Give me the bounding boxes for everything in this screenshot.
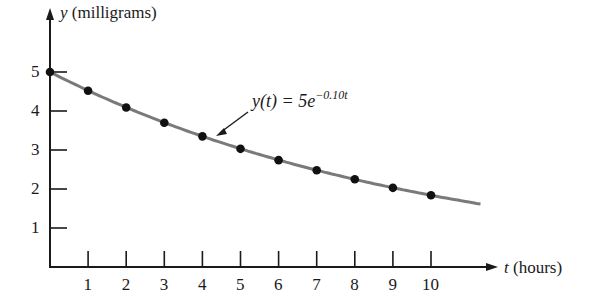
x-tick-label: 6 <box>274 276 283 293</box>
data-point <box>236 145 245 154</box>
x-axis-var: t <box>504 258 509 277</box>
x-tick-label: 4 <box>198 276 207 293</box>
y-axis-label: y (milligrams) <box>60 4 157 21</box>
data-point <box>198 132 207 141</box>
data-point <box>46 68 55 77</box>
data-point <box>84 86 93 95</box>
data-point <box>312 166 321 175</box>
data-point <box>427 191 436 200</box>
y-tick-label: 4 <box>31 102 40 119</box>
y-tick-label: 1 <box>31 219 40 236</box>
y-tick-label: 3 <box>31 141 40 158</box>
x-axis-label: t (hours) <box>504 259 562 276</box>
annotation-main: y(t) = 5e <box>252 91 315 111</box>
data-points <box>46 68 436 200</box>
axes <box>46 8 498 271</box>
x-tick-label: 8 <box>350 276 359 293</box>
data-point <box>351 175 360 184</box>
y-axis-var: y <box>60 3 68 22</box>
data-point <box>389 184 398 193</box>
annotation-arrow <box>216 112 248 136</box>
x-tick-label: 7 <box>312 276 321 293</box>
y-tick-label: 5 <box>31 63 40 80</box>
x-tick-label: 10 <box>422 276 439 293</box>
x-tick-label: 1 <box>84 276 93 293</box>
y-tick-label: 2 <box>31 180 40 197</box>
annotation-exponent: −0.10t <box>315 88 347 102</box>
x-tick-label: 2 <box>122 276 131 293</box>
x-axis-unit: (hours) <box>513 258 562 277</box>
data-point <box>122 103 131 112</box>
x-tick-label: 9 <box>388 276 397 293</box>
data-point <box>274 156 283 165</box>
data-point <box>160 118 169 127</box>
x-tick-label: 5 <box>236 276 245 293</box>
y-axis-unit: (milligrams) <box>72 3 157 22</box>
x-tick-label: 3 <box>160 276 169 293</box>
curve-annotation: y(t) = 5e−0.10t <box>252 92 348 110</box>
